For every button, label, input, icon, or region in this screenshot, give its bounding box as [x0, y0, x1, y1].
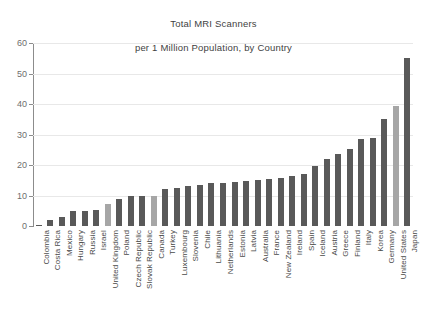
x-axis-tick-label: Latvia: [249, 230, 258, 252]
x-axis-tick-label: United Kingdom: [111, 230, 120, 288]
bar: [82, 211, 88, 226]
x-axis-tick-label: Lithuania: [214, 230, 223, 263]
x-axis-tick-label: Hungary: [76, 230, 85, 261]
x-axis-tick-label: Ireland: [295, 230, 304, 255]
x-axis-tick-label: Costa Rica: [53, 230, 62, 270]
x-axis-tick-label: Finland: [353, 230, 362, 257]
bar-column: [82, 43, 88, 226]
x-axis-tick-label: Poland: [122, 230, 131, 256]
bar-column: [370, 43, 376, 226]
bar-column: [197, 43, 203, 226]
x-axis-tick-label: Canada: [157, 230, 166, 259]
x-axis-tick-label: Greece: [341, 230, 350, 257]
x-axis-tick-label: Iceland: [318, 230, 327, 257]
bar: [93, 210, 99, 226]
bar-column: [70, 43, 76, 226]
bar: [347, 149, 353, 226]
bar-column: [232, 43, 238, 226]
x-axis-tick-label: New Zealand: [284, 230, 293, 278]
bar: [208, 183, 214, 226]
bar: [404, 58, 410, 226]
bar-column: [255, 43, 261, 226]
bar-column: [358, 43, 364, 226]
bar: [36, 225, 42, 226]
x-axis-tick-label: United States: [399, 230, 408, 279]
x-axis-tick-label: Chile: [203, 230, 212, 249]
bar: [174, 188, 180, 226]
x-axis-tick-label: Italy: [364, 230, 373, 245]
bar: [312, 166, 318, 226]
plot-area: 0102030405060: [33, 43, 413, 226]
x-axis-tick-label: Israel: [99, 230, 108, 250]
y-tick-label: 0: [22, 221, 27, 231]
bar: [381, 119, 387, 226]
bar: [128, 196, 134, 226]
bar-column: [128, 43, 134, 226]
bar: [243, 181, 249, 226]
bar-column: [347, 43, 353, 226]
x-axis-tick-label: Austria: [330, 230, 339, 256]
bar: [105, 204, 111, 226]
bar: [393, 106, 399, 226]
bar: [47, 220, 53, 226]
y-tick-label: 30: [17, 130, 27, 140]
y-tick-label: 10: [17, 191, 27, 201]
bar: [185, 186, 191, 226]
bar-column: [116, 43, 122, 226]
bar-column: [185, 43, 191, 226]
x-axis-tick-label: Japan: [410, 230, 419, 252]
bar: [59, 217, 65, 226]
bar-column: [393, 43, 399, 226]
bar-column: [381, 43, 387, 226]
bar: [324, 159, 330, 226]
x-axis-tick-label: Turkey: [168, 230, 177, 255]
bar-column: [174, 43, 180, 226]
y-tick-label: 50: [17, 69, 27, 79]
bar: [162, 189, 168, 226]
x-axis-tick-label: Estonia: [238, 230, 247, 257]
bar-column: [324, 43, 330, 226]
bar: [220, 183, 226, 226]
bar-column: [151, 43, 157, 226]
x-axis-tick-label: Czech Republic: [134, 230, 143, 287]
bar: [116, 199, 122, 226]
bar-column: [243, 43, 249, 226]
bar-column: [93, 43, 99, 226]
x-axis-tick-label: Slovenia: [191, 230, 200, 262]
bar-column: [139, 43, 145, 226]
bar-column: [162, 43, 168, 226]
bar: [70, 211, 76, 226]
bar: [232, 182, 238, 226]
bar: [289, 176, 295, 226]
y-tick-mark: [29, 226, 33, 227]
x-axis-tick-label: Mexico: [65, 230, 74, 256]
bar: [358, 139, 364, 226]
bar-column: [312, 43, 318, 226]
x-axis-tick-label: Korea: [376, 230, 385, 252]
bar-column: [289, 43, 295, 226]
y-tick-label: 40: [17, 99, 27, 109]
bar: [266, 179, 272, 226]
x-axis-tick-label: Russia: [88, 230, 97, 255]
x-axis-tick-label: Colombia: [42, 230, 51, 265]
x-axis-tick-label: Australia: [261, 230, 270, 262]
bar-column: [220, 43, 226, 226]
bar-column: [278, 43, 284, 226]
bar-column: [105, 43, 111, 226]
bar: [335, 154, 341, 226]
bar-column: [301, 43, 307, 226]
y-tick-label: 60: [17, 38, 27, 48]
bar-column: [208, 43, 214, 226]
x-axis-tick-label: Netherlands: [226, 230, 235, 274]
bar: [151, 196, 157, 227]
x-axis-tick-label: France: [272, 230, 281, 256]
bar-column: [59, 43, 65, 226]
bar: [301, 174, 307, 226]
x-axis-labels: ColombiaCosta RicaMexicoHungaryRussiaIsr…: [33, 228, 413, 324]
x-axis-tick-label: Spain: [307, 230, 316, 251]
x-axis-tick-label: Slovak Republic: [145, 230, 154, 289]
bar-series: [33, 43, 413, 226]
bar: [197, 185, 203, 226]
mri-scanners-bar-chart: Total MRI Scanners per 1 Million Populat…: [0, 0, 427, 326]
y-tick-label: 20: [17, 160, 27, 170]
